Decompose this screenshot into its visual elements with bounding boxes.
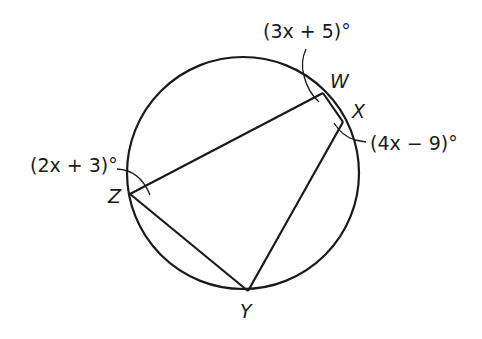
vertex-label-z: Z — [107, 185, 122, 207]
vertex-label-w: W — [330, 70, 350, 92]
inscribed-quadrilateral-diagram: (3x + 5)° (4x − 9)° (2x + 3)° W X Z Y — [0, 0, 482, 339]
circle — [127, 57, 359, 289]
vertex-label-y: Y — [240, 300, 253, 322]
angle-label-w: (3x + 5)° — [263, 20, 351, 42]
angle-label-z: (2x + 3)° — [30, 154, 118, 176]
segment-xy — [248, 122, 343, 291]
segment-zw — [130, 93, 323, 194]
vertex-label-x: X — [351, 100, 366, 122]
angle-label-x: (4x − 9)° — [370, 132, 458, 154]
